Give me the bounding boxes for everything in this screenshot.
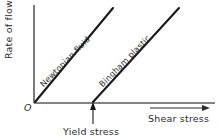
yield-stress-label: Yield stress <box>63 126 119 137</box>
origin-label: O <box>24 102 32 113</box>
shear-stress-direction-arrow-head <box>202 105 210 111</box>
x-axis-label: Shear stress <box>148 113 209 124</box>
rheology-flow-curve-figure: Rate of flow Shear stress O Newtonian fl… <box>0 0 219 140</box>
y-axis-label: Rate of flow <box>3 0 14 59</box>
